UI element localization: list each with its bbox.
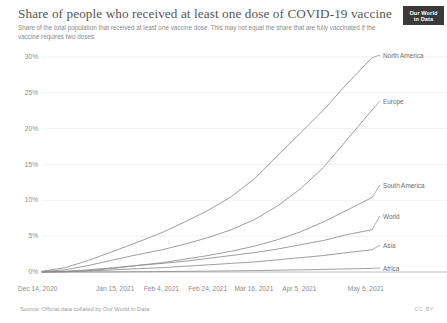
series-line[interactable] — [42, 197, 372, 272]
x-axis-tick-label: Apr 5, 2021 — [282, 285, 316, 292]
logo-line-1: Our World — [403, 10, 444, 17]
series-line[interactable] — [42, 110, 372, 272]
series-label-world[interactable]: World — [383, 213, 400, 220]
chart-header: Share of people who received at least on… — [18, 6, 393, 41]
series-label-africa[interactable]: Africa — [383, 265, 399, 272]
line-chart-svg — [0, 45, 447, 285]
y-axis-tick-label: 30% — [12, 53, 38, 60]
logo-line-2: in Data — [403, 16, 444, 23]
page-title: Share of people who received at least on… — [18, 6, 393, 21]
y-axis-tick-label: 15% — [12, 161, 38, 168]
y-axis-tick-label: 5% — [12, 232, 38, 239]
series-label-leader — [372, 245, 380, 250]
series-line[interactable] — [42, 250, 372, 272]
series-label-europe[interactable]: Europe — [383, 98, 404, 105]
x-axis-tick-label: Mar 16, 2021 — [235, 285, 274, 292]
our-world-in-data-logo[interactable]: Our World in Data — [403, 6, 444, 25]
chart-subtitle: Share of the total population that recei… — [18, 24, 390, 41]
x-axis-tick-label: Dec 14, 2020 — [18, 285, 57, 292]
source-note: Source: Official data collated by Our Wo… — [20, 306, 149, 312]
x-axis-tick-label: Jan 15, 2021 — [96, 285, 134, 292]
series-label-asia[interactable]: Asia — [383, 242, 395, 249]
plot-area — [0, 45, 447, 285]
gridlines — [42, 57, 447, 272]
y-axis-tick-label: 10% — [12, 196, 38, 203]
y-axis-tick-label: 0% — [12, 268, 38, 275]
series-label-leader — [372, 185, 380, 197]
x-axis-tick-label: Feb 24, 2021 — [188, 285, 227, 292]
series-label-leader — [372, 216, 380, 230]
series-label-south-america[interactable]: South America — [383, 182, 425, 189]
y-axis-tick-label: 20% — [12, 125, 38, 132]
x-axis-tick-label: May 6, 2021 — [348, 285, 384, 292]
series-label-north-america[interactable]: North America — [383, 52, 424, 59]
chart-card: Share of people who received at least on… — [0, 0, 447, 323]
license-note[interactable]: CC BY — [414, 306, 434, 312]
x-axis-tick-label: Feb 4, 2021 — [144, 285, 179, 292]
series-label-leader — [372, 101, 380, 110]
y-axis-tick-label: 25% — [12, 89, 38, 96]
